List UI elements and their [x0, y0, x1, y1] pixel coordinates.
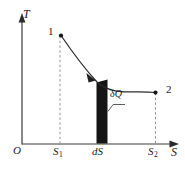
y-axis — [19, 13, 26, 145]
tick-label-s2-base: S — [148, 145, 154, 157]
process-curve — [61, 36, 155, 93]
heat-strip-dS — [97, 80, 108, 144]
point-label-2: 2 — [166, 84, 172, 95]
heat-label-leader-line — [108, 105, 125, 112]
point-marker-2 — [153, 91, 157, 95]
tick-label-s1-subscript: 1 — [59, 150, 63, 159]
point-label-1: 1 — [48, 26, 54, 37]
y-axis-label: T — [23, 8, 30, 20]
tick-label-ds: dS — [92, 146, 103, 157]
point-marker-1 — [59, 33, 63, 37]
x-axis-label: S — [171, 146, 177, 158]
tick-label-s1: S1 — [53, 146, 63, 158]
ts-diagram-figure: T S O S1 dS S2 1 2 δQ — [0, 0, 185, 170]
tick-label-s2: S2 — [148, 146, 158, 158]
origin-label: O — [13, 145, 21, 156]
tick-label-s2-subscript: 2 — [154, 150, 158, 159]
tick-label-s1-base: S — [53, 145, 59, 157]
heat-element-label: δQ — [110, 89, 122, 99]
